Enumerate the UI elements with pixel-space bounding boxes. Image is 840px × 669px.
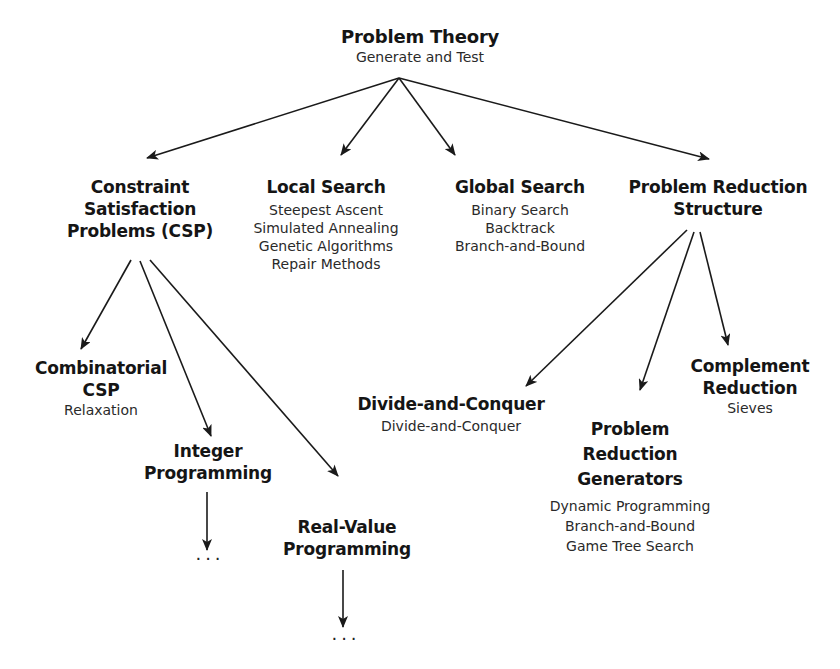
node-csp: Constraint Satisfaction Problems (CSP) <box>67 176 213 242</box>
node-subtitle: Generate and Test <box>341 48 499 66</box>
node-title: Problem Theory <box>341 26 499 48</box>
edges-layer <box>0 0 840 669</box>
node-real-value-programming: Real-Value Programming <box>283 516 411 560</box>
node-integer-programming: Integer Programming <box>144 440 272 484</box>
node-item: Genetic Algorithms <box>253 237 398 255</box>
node-title-line: Problems (CSP) <box>67 220 213 242</box>
node-item: Simulated Annealing <box>253 219 398 237</box>
node-title: Local Search <box>253 176 398 198</box>
node-global-search: Global Search Binary Search Backtrack Br… <box>455 176 585 255</box>
node-title-line: Integer <box>144 440 272 462</box>
node-title-line: CSP <box>35 379 167 401</box>
node-title-line: Problem Reduction <box>629 176 808 198</box>
edge-csp-combinatorial <box>81 260 131 349</box>
node-title-line: Satisfaction <box>67 198 213 220</box>
node-title-line: Programming <box>283 538 411 560</box>
continuation-ellipsis: ... <box>195 543 224 564</box>
node-title: Divide-and-Conquer <box>357 393 544 415</box>
node-item: Steepest Ascent <box>253 201 398 219</box>
node-item: Dynamic Programming <box>550 496 711 516</box>
node-item: Game Tree Search <box>550 536 711 556</box>
node-problem-reduction-generators: Problem Reduction Generators Dynamic Pro… <box>550 417 711 556</box>
node-item: Backtrack <box>455 219 585 237</box>
node-title-line: Problem <box>550 417 711 442</box>
node-problem-theory: Problem Theory Generate and Test <box>341 26 499 66</box>
node-item: Sieves <box>691 399 810 417</box>
node-item: Repair Methods <box>253 255 398 273</box>
node-item: Branch-and-Bound <box>550 516 711 536</box>
node-title: Global Search <box>455 176 585 198</box>
edge-root-prs <box>399 78 709 159</box>
continuation-ellipsis: ... <box>331 623 360 644</box>
node-title-line: Real-Value <box>283 516 411 538</box>
node-divide-and-conquer: Divide-and-Conquer Divide-and-Conquer <box>357 393 544 435</box>
node-combinatorial-csp: Combinatorial CSP Relaxation <box>35 357 167 419</box>
node-item: Branch-and-Bound <box>455 237 585 255</box>
node-title-line: Reduction <box>550 442 711 467</box>
node-title-line: Constraint <box>67 176 213 198</box>
node-title-line: Reduction <box>691 377 810 399</box>
node-problem-reduction-structure: Problem Reduction Structure <box>629 176 808 220</box>
edge-root-global <box>399 78 455 155</box>
node-item: Divide-and-Conquer <box>357 417 544 435</box>
node-item: Relaxation <box>35 401 167 419</box>
node-item: Binary Search <box>455 201 585 219</box>
node-title-line: Generators <box>550 467 711 492</box>
node-title-line: Complement <box>691 355 810 377</box>
node-title-line: Programming <box>144 462 272 484</box>
node-local-search: Local Search Steepest Ascent Simulated A… <box>253 176 398 273</box>
edge-prs-generators <box>640 232 694 390</box>
node-complement-reduction: Complement Reduction Sieves <box>691 355 810 417</box>
node-title-line: Structure <box>629 198 808 220</box>
edge-prs-complement <box>700 232 728 345</box>
edge-root-local <box>341 78 399 155</box>
node-title-line: Combinatorial <box>35 357 167 379</box>
edge-root-csp <box>147 78 399 158</box>
